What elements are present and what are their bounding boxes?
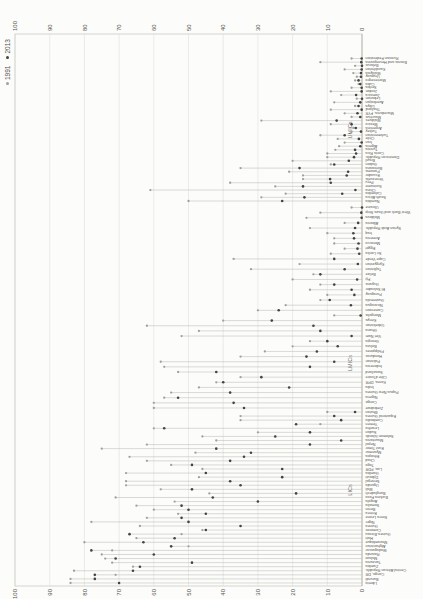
country-label: Cape Verde bbox=[366, 257, 386, 261]
country-label: Gabon bbox=[366, 162, 377, 166]
country-label: Nepal bbox=[365, 442, 375, 446]
marker-1991 bbox=[350, 206, 352, 208]
marker-2013 bbox=[295, 492, 298, 495]
marker-1991 bbox=[215, 439, 217, 441]
marker-1991 bbox=[257, 431, 259, 433]
marker-2013 bbox=[348, 160, 351, 163]
marker-2013 bbox=[359, 145, 362, 148]
country-label: Mongolia bbox=[365, 313, 381, 317]
marker-2013 bbox=[347, 170, 350, 173]
marker-1991 bbox=[239, 419, 241, 421]
marker-2013 bbox=[303, 196, 306, 199]
marker-2013 bbox=[260, 376, 263, 379]
marker-1991 bbox=[173, 500, 175, 502]
marker-1991 bbox=[352, 127, 354, 129]
marker-1991 bbox=[319, 299, 321, 301]
marker-2013 bbox=[354, 189, 357, 192]
marker-1991 bbox=[338, 145, 340, 147]
marker-2013 bbox=[94, 578, 97, 581]
country-label: Korea, DPR bbox=[365, 380, 386, 384]
country-label: Sierra Leone bbox=[366, 515, 388, 519]
marker-2013 bbox=[340, 439, 343, 442]
marker-1991 bbox=[319, 134, 321, 136]
marker-1991 bbox=[257, 309, 259, 311]
marker-1991 bbox=[298, 263, 300, 265]
marker-1991 bbox=[344, 222, 346, 224]
marker-2013 bbox=[187, 521, 190, 524]
country-label: Argentina bbox=[365, 126, 382, 130]
marker-2013 bbox=[355, 152, 358, 155]
marker-2013 bbox=[128, 533, 131, 536]
country-label: Algeria bbox=[365, 144, 378, 148]
country-label: Senegal bbox=[365, 479, 379, 483]
marker-2013 bbox=[355, 94, 358, 97]
marker-2013 bbox=[215, 371, 218, 374]
marker-2013 bbox=[353, 294, 356, 297]
marker-1991 bbox=[354, 105, 356, 107]
marker-1991 bbox=[285, 193, 287, 195]
marker-1991 bbox=[340, 94, 342, 96]
marker-2013 bbox=[239, 484, 242, 487]
marker-2013 bbox=[229, 480, 232, 483]
marker-1991 bbox=[239, 355, 241, 357]
country-label: Venezuela bbox=[365, 177, 384, 181]
marker-1991 bbox=[90, 521, 92, 523]
marker-2013 bbox=[191, 488, 194, 491]
marker-2013 bbox=[354, 149, 357, 152]
country-label: Sudan bbox=[366, 430, 377, 434]
country-label: Guyana bbox=[365, 282, 379, 286]
country-label: Swaziland bbox=[366, 370, 383, 374]
country-label: Namibia bbox=[365, 199, 380, 203]
marker-1991 bbox=[132, 566, 134, 568]
country-label: Paraguay bbox=[365, 292, 381, 296]
marker-2013 bbox=[353, 156, 356, 159]
marker-1991 bbox=[274, 185, 276, 187]
marker-1991 bbox=[330, 163, 332, 165]
country-label: Chile bbox=[366, 136, 375, 140]
marker-2013 bbox=[357, 242, 360, 245]
marker-2013 bbox=[232, 402, 235, 405]
marker-1991 bbox=[139, 525, 141, 527]
country-label: Congo bbox=[366, 400, 377, 404]
country-label: Honduras bbox=[365, 354, 382, 358]
tick-label-right: 20 bbox=[290, 24, 296, 31]
country-label: Zambia bbox=[365, 564, 379, 568]
country-label: Cameroon bbox=[366, 308, 384, 312]
marker-2013 bbox=[309, 443, 312, 446]
marker-1991 bbox=[215, 381, 217, 383]
country-label: Belarus bbox=[365, 63, 378, 67]
country-label: Malawi bbox=[365, 556, 377, 560]
marker-2013 bbox=[163, 427, 166, 430]
marker-2013 bbox=[333, 283, 336, 286]
marker-1991 bbox=[352, 72, 354, 74]
marker-2013 bbox=[333, 258, 336, 261]
marker-2013 bbox=[118, 582, 121, 585]
marker-2013 bbox=[316, 350, 319, 353]
marker-1991 bbox=[111, 549, 113, 551]
country-label: Central African Republic bbox=[365, 568, 406, 572]
country-label: Burundi bbox=[365, 577, 378, 581]
country-label: Cambodia bbox=[365, 418, 383, 422]
marker-2013 bbox=[360, 90, 363, 93]
marker-1991 bbox=[163, 397, 165, 399]
marker-1991 bbox=[326, 232, 328, 234]
marker-2013 bbox=[361, 65, 364, 68]
legend-2013-marker-icon bbox=[6, 56, 9, 59]
country-label: Myanmar bbox=[365, 450, 382, 454]
marker-1991 bbox=[356, 76, 358, 78]
tick-label-right: 30 bbox=[255, 24, 261, 31]
marker-2013 bbox=[354, 127, 357, 130]
rotated-chart-page: 1991 2013 001010202030304040505060607070… bbox=[0, 0, 423, 599]
marker-2013 bbox=[302, 185, 305, 188]
marker-1991 bbox=[187, 545, 189, 547]
marker-2013 bbox=[305, 355, 308, 358]
country-label: Bhutan bbox=[366, 410, 378, 414]
marker-1991 bbox=[125, 472, 127, 474]
country-label: Panama bbox=[365, 169, 380, 173]
country-label: Chad bbox=[366, 458, 375, 462]
tick-label-right: 50 bbox=[186, 24, 192, 31]
marker-2013 bbox=[359, 101, 362, 104]
marker-2013 bbox=[360, 72, 363, 75]
country-label: Cuba bbox=[365, 82, 375, 86]
marker-1991 bbox=[146, 517, 148, 519]
